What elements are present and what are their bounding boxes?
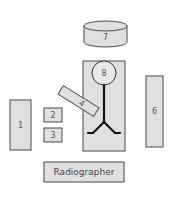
item-8-head: 8 — [92, 61, 116, 85]
room-layout-diagram: 7 8 4 1 2 3 6 Radiographer — [0, 0, 177, 200]
item-1: 1 — [10, 100, 31, 150]
item-7-label: 7 — [103, 33, 108, 42]
item-2: 2 — [44, 108, 62, 122]
item-3-label: 3 — [50, 131, 55, 140]
radiographer-label: Radiographer — [54, 167, 115, 177]
radiographer-box: Radiographer — [44, 162, 124, 182]
item-8-label: 8 — [101, 69, 106, 78]
item-6: 6 — [146, 76, 163, 147]
item-7-cylinder: 7 — [84, 21, 127, 47]
item-1-label: 1 — [18, 121, 23, 130]
item-3: 3 — [44, 128, 62, 142]
item-2-label: 2 — [50, 111, 55, 120]
item-6-label: 6 — [152, 107, 157, 116]
